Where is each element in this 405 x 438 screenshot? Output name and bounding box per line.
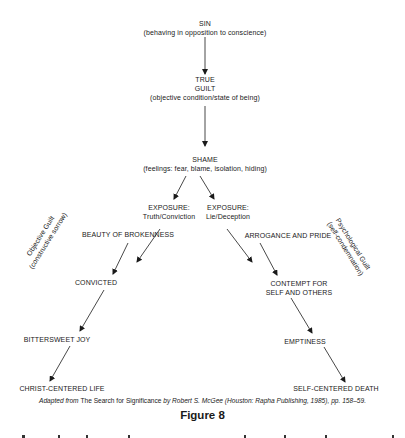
node-true-guilt-line2: GUILT	[150, 84, 260, 93]
node-exposure-lie-line1: EXPOSURE:	[206, 203, 250, 212]
node-self-death-title: SELF-CENTERED DEATH	[293, 385, 378, 392]
arrow-convicted-to-bittersweet	[80, 290, 104, 331]
node-shame-subtitle: (feelings: fear, blame, isolation, hidin…	[143, 164, 267, 173]
node-christ-centered-life: CHRIST-CENTERED LIFE	[19, 384, 104, 393]
node-emptiness-title: EMPTINESS	[284, 338, 325, 345]
arrow-arrogance-to-contempt	[260, 243, 277, 275]
node-exposure-lie-line2: Lie/Deception	[206, 212, 250, 221]
caption-suffix: by Robert S. McGee (Houston: Rapha Publi…	[161, 397, 366, 404]
node-sin-title: SIN	[144, 19, 267, 28]
caption-book-title: The Search for Significance	[80, 397, 161, 404]
node-convicted: CONVICTED	[75, 278, 117, 287]
caption-prefix: Adapted from	[39, 397, 80, 404]
node-bittersweet-joy: BITTERSWEET JOY	[24, 335, 91, 344]
node-true-guilt: TRUE GUILT (objective condition/state of…	[150, 75, 260, 102]
arrow-shame-to-lie	[200, 176, 214, 199]
node-bittersweet-title: BITTERSWEET JOY	[24, 336, 91, 343]
node-true-guilt-subtitle: (objective condition/state of being)	[150, 93, 260, 102]
node-beauty-of-brokenness: BEAUTY OF BROKENNESS	[82, 230, 174, 239]
node-contempt: CONTEMPT FOR SELF AND OTHERS	[266, 279, 332, 297]
node-christ-life-title: CHRIST-CENTERED LIFE	[19, 385, 104, 392]
arrow-bittersweet-to-life	[50, 346, 70, 381]
node-exposure-truth: EXPOSURE: Truth/Conviction	[143, 203, 195, 221]
node-self-centered-death: SELF-CENTERED DEATH	[293, 384, 378, 393]
arrow-contempt-to-emptiness	[291, 298, 312, 333]
arrow-beauty-to-convicted	[113, 243, 128, 274]
node-exposure-truth-line2: Truth/Conviction	[143, 212, 195, 221]
node-contempt-line1: CONTEMPT FOR	[266, 279, 332, 288]
arrow-shame-to-truth	[174, 176, 186, 199]
node-arrogance-and-pride: ARROGANCE AND PRIDE	[245, 231, 332, 240]
node-exposure-truth-line1: EXPOSURE:	[143, 203, 195, 212]
node-shame-title: SHAME	[143, 155, 267, 164]
node-shame: SHAME (feelings: fear, blame, isolation,…	[143, 155, 267, 173]
arrow-emptiness-to-death	[324, 347, 345, 382]
node-sin: SIN (behaving in opposition to conscienc…	[144, 19, 267, 37]
node-emptiness: EMPTINESS	[284, 337, 325, 346]
node-arrogance-title: ARROGANCE AND PRIDE	[245, 232, 332, 239]
figure-caption: Adapted from The Search for Significance…	[0, 397, 405, 404]
node-contempt-line2: SELF AND OTHERS	[266, 288, 332, 297]
figure-label: Figure 8	[0, 409, 405, 421]
node-sin-subtitle: (behaving in opposition to conscience)	[144, 28, 267, 37]
cut-off-text-row	[0, 434, 405, 438]
node-exposure-lie: EXPOSURE: Lie/Deception	[206, 203, 250, 221]
node-true-guilt-line1: TRUE	[150, 75, 260, 84]
node-convicted-title: CONVICTED	[75, 279, 117, 286]
node-beauty-title: BEAUTY OF BROKENNESS	[82, 231, 174, 238]
